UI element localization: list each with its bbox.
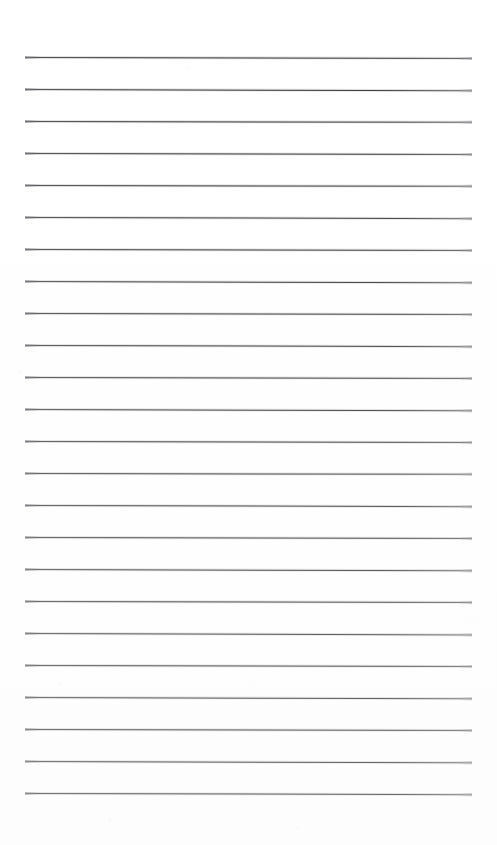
ruled-line[interactable] [25,727,472,734]
ruled-line[interactable] [25,695,472,702]
ruled-line-right-cap [458,377,472,380]
ruled-line-right-cap [458,697,472,700]
ruled-line-right-cap [458,409,472,412]
ruled-line[interactable] [25,567,472,574]
ruled-line[interactable] [25,87,472,94]
bottom-margin-area [0,795,497,845]
ruled-line-left-cap [25,152,41,155]
ruled-line-right-cap [458,505,472,508]
ruled-line-right-cap [458,793,472,796]
ruled-line-left-cap [25,184,41,187]
ruled-line-left-cap [25,344,41,347]
ruled-line-right-cap [458,121,472,124]
ruled-line-right-cap [458,761,472,764]
ruled-line[interactable] [25,599,472,606]
ruled-line[interactable] [25,759,472,766]
ruled-line-right-cap [458,217,472,220]
ruled-line[interactable] [25,791,472,798]
ruled-line[interactable] [25,311,472,318]
ruled-line-left-cap [25,216,41,219]
ruled-line-left-cap [25,568,41,571]
ruled-line[interactable] [25,55,472,62]
ruled-line[interactable] [25,439,472,446]
ruled-line-left-cap [25,472,41,475]
ruled-line[interactable] [25,503,472,510]
ruled-line-right-cap [458,665,472,668]
ruled-line[interactable] [25,279,472,286]
ruled-line[interactable] [25,247,472,254]
ruled-line-left-cap [25,536,41,539]
ruled-line[interactable] [25,151,472,158]
ruled-line-left-cap [25,376,41,379]
ruled-line-left-cap [25,408,41,411]
ruled-line-left-cap [25,88,41,91]
ruled-line[interactable] [25,119,472,126]
ruled-line-left-cap [25,248,41,251]
ruled-line-right-cap [458,537,472,540]
ruled-line-left-cap [25,56,41,59]
ruled-line-left-cap [25,792,41,795]
ruled-line[interactable] [25,215,472,222]
ruled-line-right-cap [458,345,472,348]
ruled-line-left-cap [25,600,41,603]
ruled-line[interactable] [25,535,472,542]
ruled-line-right-cap [458,185,472,188]
ruled-line-left-cap [25,504,41,507]
ruled-line[interactable] [25,407,472,414]
ruled-line-left-cap [25,696,41,699]
paper-grain-overlay [0,0,497,845]
ruled-line-right-cap [458,57,472,60]
ruled-line[interactable] [25,471,472,478]
ruled-line-right-cap [458,729,472,732]
ruled-line-right-cap [458,249,472,252]
ruled-line-left-cap [25,632,41,635]
ruled-line-left-cap [25,728,41,731]
ruled-line-right-cap [458,473,472,476]
ruled-line-right-cap [458,601,472,604]
lined-paper-page [0,0,497,845]
ruled-line-right-cap [458,441,472,444]
ruled-line-left-cap [25,280,41,283]
ruled-line[interactable] [25,631,472,638]
ruled-line[interactable] [25,375,472,382]
ruled-line[interactable] [25,663,472,670]
ruled-line-left-cap [25,120,41,123]
ruled-line-right-cap [458,153,472,156]
ruled-line-right-cap [458,281,472,284]
ruled-line-right-cap [458,569,472,572]
ruled-line-left-cap [25,312,41,315]
ruled-line-right-cap [458,313,472,316]
ruled-line-left-cap [25,664,41,667]
ruled-line-right-cap [458,633,472,636]
ruled-line-right-cap [458,89,472,92]
ruled-line-left-cap [25,440,41,443]
ruled-line[interactable] [25,343,472,350]
ruled-line-left-cap [25,760,41,763]
ruled-line[interactable] [25,183,472,190]
